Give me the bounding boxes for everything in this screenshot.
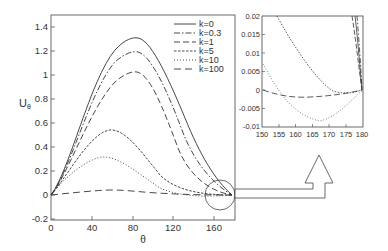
figure: -0.2 0 0.2 0.4 0.6 0.8 1 1.2 1.4 0 40 80… bbox=[0, 0, 388, 251]
svg-text:1: 1 bbox=[43, 69, 48, 80]
curve-k5 bbox=[51, 130, 232, 195]
svg-text:180: 180 bbox=[356, 130, 369, 139]
svg-text:0.2: 0.2 bbox=[35, 165, 48, 176]
svg-text:175: 175 bbox=[340, 130, 353, 139]
svg-text:1.4: 1.4 bbox=[35, 21, 48, 32]
svg-text:-0.2: -0.2 bbox=[32, 213, 48, 224]
svg-text:-0.005: -0.005 bbox=[239, 104, 260, 113]
curve-k10 bbox=[51, 157, 232, 196]
curve-k1 bbox=[51, 72, 232, 195]
svg-text:80: 80 bbox=[128, 222, 139, 233]
svg-text:160: 160 bbox=[289, 130, 302, 139]
svg-text:0.8: 0.8 bbox=[35, 93, 48, 104]
x-axis-label: θ bbox=[140, 234, 146, 245]
svg-text:0: 0 bbox=[256, 86, 260, 95]
svg-text:k=100: k=100 bbox=[199, 64, 224, 74]
svg-text:120: 120 bbox=[165, 222, 181, 233]
svg-text:0.6: 0.6 bbox=[35, 117, 48, 128]
svg-text:40: 40 bbox=[87, 222, 98, 233]
svg-text:0: 0 bbox=[48, 222, 53, 233]
legend: k=0 k=0.3 k=1 k=5 k=10 k=100 bbox=[170, 16, 234, 74]
y-axis-label: Uθ bbox=[19, 97, 31, 110]
x-axis-ticks: 0 40 80 120 160 bbox=[48, 216, 222, 233]
svg-text:165: 165 bbox=[306, 130, 319, 139]
svg-text:0: 0 bbox=[43, 189, 48, 200]
svg-text:0.005: 0.005 bbox=[241, 67, 260, 76]
svg-text:0.02: 0.02 bbox=[245, 12, 260, 21]
svg-text:1.2: 1.2 bbox=[35, 45, 48, 56]
svg-text:0.015: 0.015 bbox=[241, 30, 260, 39]
connector-arrow bbox=[235, 155, 333, 198]
inset-y-ticks: -0.01 -0.005 0 0.005 0.01 0.015 0.02 bbox=[239, 12, 265, 131]
svg-text:0.4: 0.4 bbox=[35, 141, 48, 152]
inset-plot-frame bbox=[262, 16, 363, 127]
svg-text:0.01: 0.01 bbox=[245, 49, 260, 58]
svg-text:155: 155 bbox=[273, 130, 286, 139]
y-axis-ticks: -0.2 0 0.2 0.4 0.6 0.8 1 1.2 1.4 bbox=[32, 21, 55, 224]
svg-text:150: 150 bbox=[256, 130, 269, 139]
svg-text:170: 170 bbox=[323, 130, 336, 139]
svg-text:160: 160 bbox=[206, 222, 222, 233]
